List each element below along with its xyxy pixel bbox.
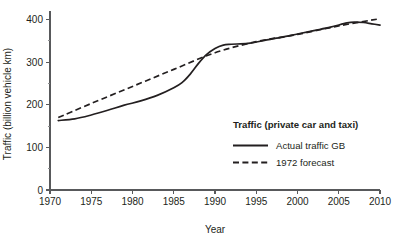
chart-legend: Traffic (private car and taxi) Actual tr…	[233, 119, 358, 168]
x-tick-label-1970: 1970	[39, 196, 62, 207]
y-tick-label-300: 300	[26, 57, 43, 68]
y-tick-label-200: 200	[26, 99, 43, 110]
y-axis-major-ticks	[46, 20, 50, 190]
y-tick-label-0: 0	[37, 185, 43, 196]
x-tick-label-1990: 1990	[204, 196, 227, 207]
x-tick-label-2010: 2010	[369, 196, 392, 207]
x-tick-label-1975: 1975	[80, 196, 103, 207]
series-line-actual-traffic-gb	[58, 22, 380, 120]
traffic-line-chart: 0100200300400 19701975198019851990199520…	[0, 0, 396, 239]
x-axis-title: Year	[205, 224, 226, 235]
y-axis-group: 0100200300400	[26, 11, 50, 196]
x-tick-label-1985: 1985	[163, 196, 186, 207]
x-tick-label-1995: 1995	[245, 196, 268, 207]
series-line-1972-forecast	[58, 19, 380, 118]
x-axis-group: 197019751980198519901995200020052010	[39, 190, 392, 207]
legend-label-actual-traffic-gb: Actual traffic GB	[276, 140, 345, 151]
chart-canvas: 0100200300400 19701975198019851990199520…	[0, 0, 396, 239]
legend-title: Traffic (private car and taxi)	[233, 119, 358, 130]
x-tick-label-1980: 1980	[121, 196, 144, 207]
legend-label-1972-forecast: 1972 forecast	[276, 157, 334, 168]
y-axis-title: Traffic (billion vehicle km)	[2, 48, 13, 160]
x-tick-label-2000: 2000	[286, 196, 309, 207]
y-axis-tick-labels: 0100200300400	[26, 14, 43, 195]
x-tick-label-2005: 2005	[328, 196, 351, 207]
x-axis-tick-labels: 197019751980198519901995200020052010	[39, 196, 392, 207]
plot-series-group	[58, 19, 380, 121]
x-axis-major-ticks	[50, 190, 380, 194]
y-tick-label-100: 100	[26, 142, 43, 153]
y-tick-label-400: 400	[26, 14, 43, 25]
